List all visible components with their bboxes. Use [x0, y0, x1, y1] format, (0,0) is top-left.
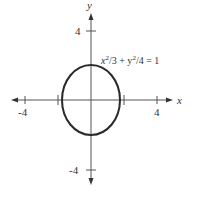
y-axis-label: y: [86, 0, 92, 11]
x-axis-left-arrow-icon: [11, 98, 18, 103]
equation-label: x2/3 + y2/4 = 1: [100, 54, 159, 66]
x-axis-label: x: [176, 94, 182, 106]
tick-label-y-neg4: -4: [69, 164, 79, 176]
y-axis-up-arrow-icon: [89, 13, 94, 20]
y-axis-down-arrow-icon: [89, 178, 94, 185]
x-axis-right-arrow-icon: [166, 98, 173, 103]
tick-label-x-pos4: 4: [154, 106, 160, 118]
ellipse-chart: y x 4 -4 -4 4 x2/3 + y2/4 = 1: [0, 0, 197, 197]
tick-label-x-neg4: -4: [18, 106, 28, 118]
tick-label-y-pos4: 4: [75, 25, 81, 37]
